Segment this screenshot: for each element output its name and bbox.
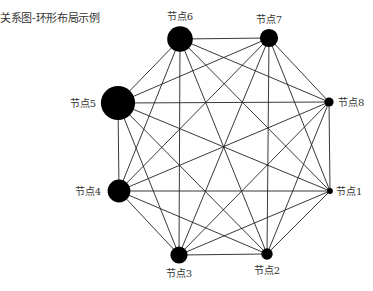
edge-n2-n4: [119, 191, 267, 254]
node-label-n7: 节点7: [256, 14, 282, 25]
edge-n2-n7: [267, 38, 269, 254]
edge-n3-n5: [118, 103, 179, 255]
node-label-n5: 节点5: [70, 98, 96, 109]
nodes-layer: [101, 26, 334, 263]
node-n2[interactable]: [261, 248, 272, 259]
edge-n3-n8: [179, 102, 329, 255]
node-label-n1: 节点1: [336, 186, 362, 197]
node-label-n3: 节点3: [166, 268, 192, 279]
edge-n2-n5: [118, 103, 267, 254]
graph-canvas: 节点1节点2节点3节点4节点5节点6节点7节点8: [0, 0, 373, 291]
edge-n1-n8: [329, 102, 330, 191]
node-n6[interactable]: [167, 26, 193, 52]
edge-n1-n6: [180, 39, 330, 191]
edge-n7-n8: [269, 38, 329, 102]
node-label-n2: 节点2: [254, 265, 280, 276]
node-n4[interactable]: [108, 180, 131, 203]
edge-n3-n6: [179, 39, 180, 255]
edges-layer: [118, 38, 330, 255]
edge-n2-n3: [179, 254, 267, 255]
node-n7[interactable]: [260, 29, 278, 47]
node-n1[interactable]: [327, 188, 333, 194]
node-n5[interactable]: [101, 86, 135, 120]
node-n8[interactable]: [324, 97, 333, 106]
edge-n6-n8: [180, 39, 329, 102]
edge-n1-n2: [267, 191, 330, 254]
node-label-n4: 节点4: [75, 186, 101, 197]
node-label-n6: 节点6: [167, 11, 193, 22]
node-n3[interactable]: [170, 246, 187, 263]
edge-n5-n8: [118, 102, 329, 103]
edge-n6-n7: [180, 38, 269, 39]
node-label-n8: 节点8: [338, 97, 364, 108]
edge-n3-n4: [119, 191, 179, 255]
edge-n4-n7: [119, 38, 269, 191]
